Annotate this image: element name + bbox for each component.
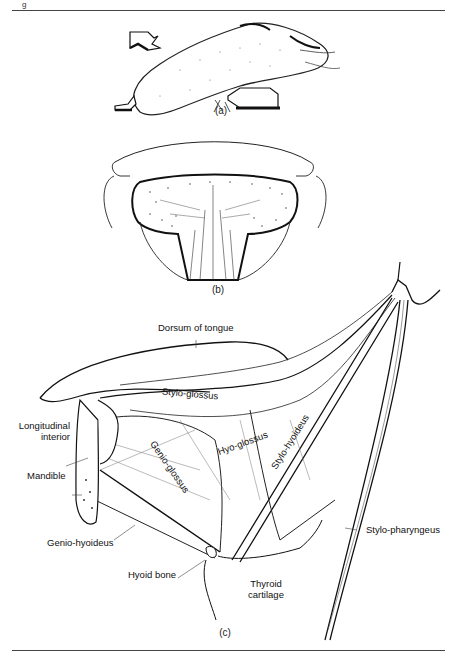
label-thyroid-cartilage: Thyroid cartilage (236, 578, 296, 600)
panel-c: Dorsum of tongue Stylo-glossus Longitudi… (0, 0, 457, 660)
label-hyoid-bone: Hyoid bone (128, 569, 176, 580)
label-genio-hyoideus: Genio-hyoideus (47, 537, 114, 548)
label-stylo-pharyngeus: Stylo-pharyngeus (366, 524, 440, 535)
label-longitudinal-interior: Longitudinal interior (12, 420, 70, 442)
label-dorsum-of-tongue: Dorsum of tongue (158, 322, 234, 333)
bottom-rule (12, 650, 445, 651)
label-mandible: Mandible (27, 470, 66, 481)
caption-c: (c) (219, 627, 231, 638)
